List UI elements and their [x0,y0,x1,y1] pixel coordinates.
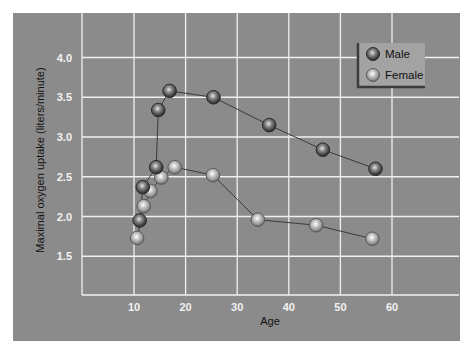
x-axis-ticks: 102030405060 [128,301,398,313]
data-point-male [316,143,330,157]
data-point-male [369,162,383,176]
legend-item-male[interactable]: Male [367,48,410,61]
data-point-male [207,90,221,104]
data-point-female [137,199,151,213]
x-tick-label: 60 [386,301,398,313]
data-point-female [130,231,144,245]
data-series [130,84,382,245]
x-tick-label: 20 [179,301,191,313]
data-point-female [251,213,265,227]
data-point-male [133,214,147,228]
x-axis-label: Age [260,315,280,327]
data-point-female [168,160,182,174]
y-tick-label: 3.5 [57,91,72,103]
y-tick-label: 2.0 [57,211,72,223]
data-point-male [163,84,177,98]
data-point-female [309,218,323,232]
x-tick-label: 30 [231,301,243,313]
data-point-female [206,168,220,182]
y-axis-label: Maximal oxygen uptake (liters/minute) [34,67,46,252]
legend-label-female: Female [385,69,423,81]
line-chart: 102030405060 1.52.02.53.03.54.0 Age Maxi… [0,0,471,357]
data-point-male [262,118,276,132]
x-tick-label: 50 [334,301,346,313]
female-marker-icon [367,69,380,82]
data-point-male [149,160,163,174]
x-tick-label: 10 [128,301,140,313]
legend-item-female[interactable]: Female [367,69,424,82]
series-line-female [137,167,372,239]
y-tick-label: 2.5 [57,171,72,183]
y-axis-ticks: 1.52.02.53.03.54.0 [57,52,72,263]
y-tick-label: 3.0 [57,131,72,143]
male-marker-icon [367,48,380,61]
legend-label-male: Male [385,48,410,60]
legend: Male Female [358,43,425,87]
x-tick-label: 40 [283,301,295,313]
y-tick-label: 4.0 [57,52,72,64]
data-point-female [366,232,380,246]
y-tick-label: 1.5 [57,250,72,262]
data-point-male [136,180,150,194]
data-point-male [151,103,165,117]
